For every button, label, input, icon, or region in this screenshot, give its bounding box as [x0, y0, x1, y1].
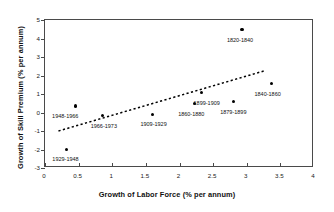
x-axis-tick-label: 3 [244, 172, 247, 179]
data-point [270, 82, 273, 85]
chart-figure: Growth of Skill Premium (% per annum) Gr… [0, 0, 334, 212]
data-point-label: 1948-1966 [52, 113, 78, 119]
x-axis-tick-label: 1.5 [141, 172, 150, 179]
data-point-label: 1899-1909 [194, 100, 220, 106]
x-axis-tick-label: 2 [177, 172, 180, 179]
data-point [240, 28, 243, 31]
y-axis-tick [41, 20, 45, 21]
y-axis-tick [41, 39, 45, 40]
x-axis-tick [146, 163, 147, 166]
data-point [101, 114, 104, 117]
y-axis-tick-label: 3 [30, 53, 40, 60]
y-axis-tick [41, 168, 45, 169]
x-axis-tick [180, 163, 181, 166]
y-axis-tick-label: -2 [30, 145, 40, 152]
data-point-label: 1860-1880 [178, 111, 204, 117]
y-axis-tick-label: -3 [30, 164, 40, 171]
y-axis-tick [41, 76, 45, 77]
x-axis-tick [79, 163, 80, 166]
data-point-label: 1820-1840 [227, 37, 253, 43]
x-axis-tick-label: 0.5 [73, 172, 82, 179]
x-axis-tick [280, 163, 281, 166]
y-axis-tick [41, 57, 45, 58]
data-point [65, 148, 68, 151]
data-point [74, 104, 77, 107]
x-axis-tick-label: 1 [110, 172, 113, 179]
data-point [232, 100, 235, 103]
y-axis-tick [41, 131, 45, 132]
data-point-label: 1840-1860 [254, 91, 280, 97]
y-axis-tick-label: 2 [30, 71, 40, 78]
y-axis-tick [41, 150, 45, 151]
x-axis-tick [45, 163, 46, 166]
x-axis-tick-label: 2.5 [208, 172, 217, 179]
data-point-label: 1909-1929 [140, 121, 166, 127]
x-axis-tick [213, 163, 214, 166]
y-axis-tick-label: 0 [30, 108, 40, 115]
y-axis-tick-label: 4 [30, 34, 40, 41]
x-axis-tick-label: 0 [42, 172, 45, 179]
x-axis-tick [247, 163, 248, 166]
x-axis-tick-label: 4 [311, 172, 314, 179]
y-axis-tick [41, 113, 45, 114]
x-axis-tick-label: 3.5 [275, 172, 284, 179]
x-axis-tick [112, 163, 113, 166]
data-point [200, 91, 203, 94]
data-point [151, 113, 154, 116]
data-point-label: 1929-1948 [52, 156, 78, 162]
y-axis-tick-label: 5 [30, 16, 40, 23]
data-point-label: 1966-1973 [91, 123, 117, 129]
y-axis-title: Growth of Skill Premium (% per annum) [16, 18, 25, 178]
y-axis-tick-label: 1 [30, 90, 40, 97]
y-axis-tick [41, 94, 45, 95]
y-axis-tick-label: -1 [30, 127, 40, 134]
x-axis-title: Growth of Labor Force (% per annum) [0, 190, 334, 199]
data-point-label: 1879-1899 [220, 109, 246, 115]
